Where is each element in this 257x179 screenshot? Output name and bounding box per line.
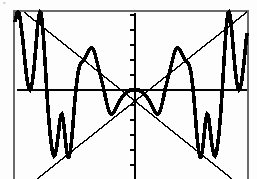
graph-canvas bbox=[0, 0, 257, 179]
graph-plot-area bbox=[0, 0, 257, 179]
calculator-screen: • • bbox=[0, 0, 257, 179]
